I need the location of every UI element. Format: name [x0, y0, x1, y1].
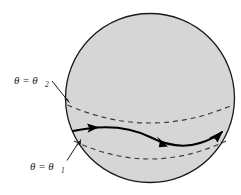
theta-1-label-subscript: 1 [61, 166, 65, 175]
theta-2-annotation: θ = θ 2 [14, 74, 70, 104]
theta-1-leader-line [67, 141, 80, 161]
theta-1-label-base: θ = θ [30, 160, 54, 172]
figure-container: θ = θ 2 θ = θ 1 [0, 0, 241, 195]
theta-1-annotation: θ = θ 1 [30, 139, 81, 175]
theta-2-label-base: θ = θ [14, 74, 38, 86]
theta-2-label-subscript: 2 [45, 80, 49, 89]
sphere-diagram: θ = θ 2 θ = θ 1 [0, 0, 241, 195]
sphere-outline [66, 14, 235, 183]
